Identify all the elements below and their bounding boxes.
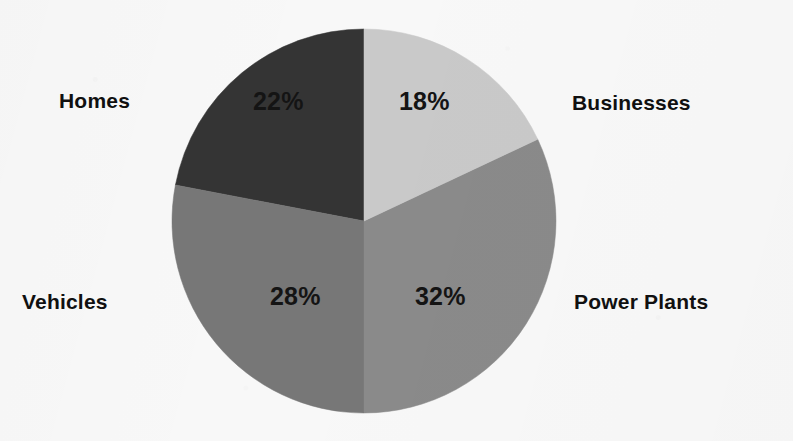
slice-value-businesses: 18% <box>399 87 450 116</box>
slice-value-power-plants: 32% <box>415 282 466 311</box>
slice-label-businesses: Businesses <box>572 91 691 115</box>
pie-chart-figure: 22% 18% 28% 32% Homes Businesses Vehicle… <box>0 0 793 441</box>
slice-value-vehicles: 28% <box>270 282 321 311</box>
slice-label-power-plants: Power Plants <box>574 290 708 314</box>
slice-label-vehicles: Vehicles <box>22 290 108 314</box>
pie-chart-graphic <box>0 0 793 441</box>
pie-slice-vehicles[interactable] <box>172 185 364 413</box>
slice-value-homes: 22% <box>253 87 304 116</box>
slice-label-homes: Homes <box>59 89 130 113</box>
